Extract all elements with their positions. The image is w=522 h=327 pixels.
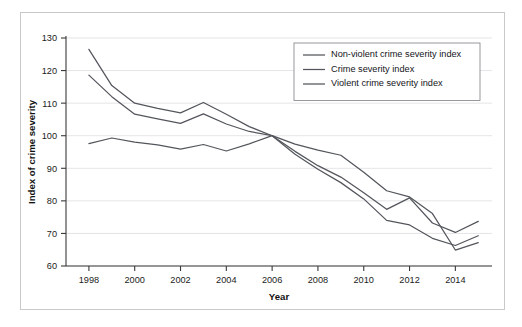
y-tick-label: 100 <box>42 131 57 141</box>
x-tick-label: 2004 <box>216 275 236 285</box>
chart-figure: 6070809010011012013019982000200220042006… <box>20 12 505 310</box>
legend-label-1: Non-violent crime severity index <box>331 49 462 59</box>
y-tick-label: 70 <box>47 229 57 239</box>
series-line-3 <box>89 136 478 250</box>
x-tick-label: 2006 <box>262 275 282 285</box>
x-tick-label: 2002 <box>170 275 190 285</box>
y-axis-title: Index of crime severity <box>26 99 37 204</box>
x-tick-label: 2000 <box>124 275 144 285</box>
y-tick-label: 60 <box>47 261 57 271</box>
y-tick-label: 90 <box>47 164 57 174</box>
x-tick-label: 1998 <box>79 275 99 285</box>
x-tick-label: 2010 <box>354 275 374 285</box>
x-axis-title: Year <box>269 291 290 302</box>
line-chart: 6070809010011012013019982000200220042006… <box>21 13 506 311</box>
y-tick-label: 130 <box>42 33 57 43</box>
legend-label-2: Crime severity index <box>331 64 415 74</box>
x-tick-label: 2014 <box>445 275 465 285</box>
y-tick-label: 110 <box>42 99 57 109</box>
y-tick-label: 80 <box>47 196 57 206</box>
legend-label-3: Violent crime severity index <box>331 78 443 88</box>
y-tick-label: 120 <box>42 66 57 76</box>
x-tick-label: 2008 <box>308 275 328 285</box>
x-tick-label: 2012 <box>399 275 419 285</box>
